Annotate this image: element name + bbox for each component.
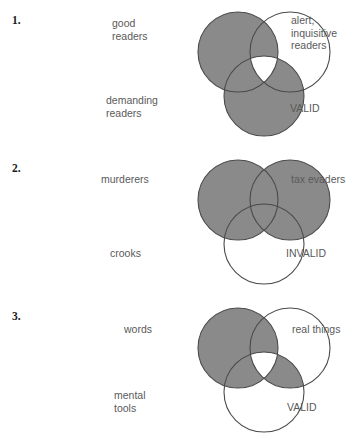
label-verdict: VALID <box>290 102 320 115</box>
label-top-left: words <box>124 323 152 336</box>
label-bottom-left: mental tools <box>114 389 146 414</box>
label-bottom-left: demanding readers <box>106 94 158 119</box>
problem-2: 2. murderers tax evaders crooks INVALID <box>0 148 363 296</box>
label-bottom-left: crooks <box>110 247 141 260</box>
problem-3: 3. <box>0 296 363 444</box>
problem-number: 3. <box>12 310 21 322</box>
venn-diagram-3 <box>160 298 360 443</box>
venn-shaded-regions-2 <box>160 150 360 295</box>
label-top-right: tax evaders <box>291 173 345 186</box>
problem-number: 2. <box>12 162 21 174</box>
venn-shaded-regions-3 <box>160 298 360 443</box>
label-top-right: real things <box>292 323 340 336</box>
label-verdict: VALID <box>287 401 317 414</box>
label-top-right: alert, inquisitive readers <box>291 14 337 52</box>
problem-number: 1. <box>12 14 21 26</box>
venn-diagram-2 <box>160 150 360 295</box>
problem-1: 1. <box>0 0 363 148</box>
label-top-left: good readers <box>112 17 148 42</box>
label-verdict: INVALID <box>286 247 326 260</box>
label-top-left: murderers <box>101 173 149 186</box>
